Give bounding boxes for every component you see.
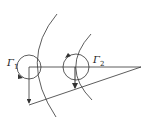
diagram-svg xyxy=(0,0,152,124)
diagram-canvas: Γ1 Γ2 xyxy=(0,0,152,124)
diagonal-line xyxy=(29,67,141,105)
gamma-1-label: Γ1 xyxy=(7,58,18,71)
gamma-2-label: Γ2 xyxy=(93,55,104,68)
